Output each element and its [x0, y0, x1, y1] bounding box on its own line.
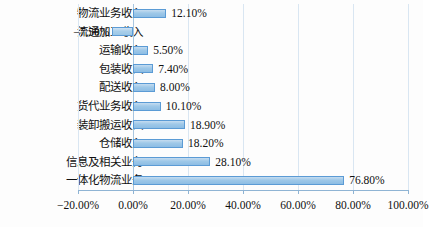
- x-axis-tick: [133, 190, 134, 194]
- bar-value-label: 18.90%: [190, 116, 225, 135]
- bar-value-label: 5.50%: [153, 41, 183, 60]
- bar-row: 8.00%: [78, 78, 408, 97]
- bar-value-label: 7.40%: [158, 60, 188, 79]
- bar-value-label: 8.00%: [160, 78, 190, 97]
- x-axis-tick-label: 40.00%: [225, 196, 260, 214]
- x-axis-tick-label: 60.00%: [280, 196, 315, 214]
- x-axis-tick-label: 0.00%: [118, 196, 148, 214]
- bar: [133, 120, 185, 129]
- bar-row: 18.20%: [78, 134, 408, 153]
- x-axis-tick: [243, 190, 244, 194]
- bar-value-label: −7.50%: [73, 23, 109, 42]
- bar-value-label: 10.10%: [166, 97, 201, 116]
- bar: [133, 83, 155, 92]
- plot-area: 12.10%−7.50%5.50%7.40%8.00%10.10%18.90%1…: [78, 4, 408, 190]
- x-axis-tick: [298, 190, 299, 194]
- bar: [133, 102, 161, 111]
- x-axis-tick-label: 100.00%: [387, 196, 428, 214]
- bar: [133, 139, 183, 148]
- x-axis-tick-label: −20.00%: [57, 196, 99, 214]
- bar: [133, 64, 153, 73]
- bar: [112, 27, 133, 36]
- bar-row: 28.10%: [78, 153, 408, 172]
- bar-row: −7.50%: [78, 23, 408, 42]
- bar-value-label: 18.20%: [188, 134, 223, 153]
- x-axis-tick-labels: −20.00%0.00%20.00%40.00%60.00%80.00%100.…: [0, 196, 423, 216]
- bar: [133, 176, 344, 185]
- bar-row: 10.10%: [78, 97, 408, 116]
- bar-row: 76.80%: [78, 171, 408, 190]
- x-axis-tick: [78, 190, 79, 194]
- gridline: [408, 4, 409, 190]
- x-axis-tick: [188, 190, 189, 194]
- bar-value-label: 76.80%: [349, 171, 384, 190]
- bar-row: 18.90%: [78, 116, 408, 135]
- bar-value-label: 28.10%: [215, 153, 250, 172]
- bar-value-label: 12.10%: [171, 4, 206, 23]
- x-axis-tick: [408, 190, 409, 194]
- bar-row: 7.40%: [78, 60, 408, 79]
- bar: [133, 46, 148, 55]
- bar-row: 12.10%: [78, 4, 408, 23]
- x-axis-tick: [353, 190, 354, 194]
- bar: [133, 157, 210, 166]
- x-axis-tick-label: 20.00%: [170, 196, 205, 214]
- x-axis-tick-label: 80.00%: [335, 196, 370, 214]
- bar-row: 5.50%: [78, 41, 408, 60]
- bar: [133, 9, 166, 18]
